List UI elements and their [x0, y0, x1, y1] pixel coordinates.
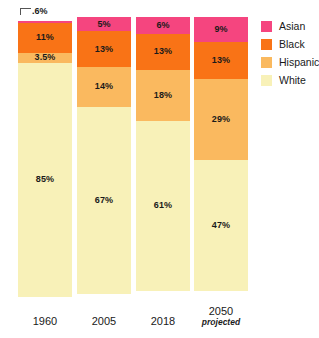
bar-2050: 9%13%29%47% — [194, 17, 248, 297]
segment-asian-2050: 9% — [194, 17, 248, 42]
segment-black-2005: 13% — [77, 31, 131, 67]
callout-leader-line — [20, 8, 31, 15]
segment-value-label: 29% — [212, 115, 230, 124]
legend-swatch-asian — [261, 21, 272, 32]
legend-label: White — [279, 74, 306, 86]
segment-black-2018: 13% — [136, 34, 190, 70]
segment-value-label: 6% — [156, 21, 169, 30]
legend-item-black[interactable]: Black — [261, 35, 319, 53]
segment-black-1960: 11% — [18, 23, 72, 53]
x-axis-tick-label: 1960 — [18, 315, 72, 328]
segment-value-label: 9% — [214, 25, 227, 34]
legend-item-hispanic[interactable]: Hispanic — [261, 53, 319, 71]
segment-white-2005: 67% — [77, 107, 131, 295]
legend-item-white[interactable]: White — [261, 71, 319, 89]
segment-value-label: 85% — [36, 175, 54, 184]
segment-hispanic-1960: 3.5% — [18, 53, 72, 63]
segment-value-label: .6% — [32, 7, 48, 16]
stacked-bar-chart: .6%11%3.5%85%19605%13%14%67%20056%13%18%… — [0, 0, 319, 338]
segment-asian-2018: 6% — [136, 17, 190, 34]
segment-value-label: 11% — [36, 33, 54, 42]
segment-white-2018: 61% — [136, 121, 190, 292]
segment-value-label: 18% — [154, 91, 172, 100]
segment-asian-2005: 5% — [77, 17, 131, 31]
segment-value-label: 14% — [95, 82, 113, 91]
legend-swatch-black — [261, 39, 272, 50]
segment-white-2050: 47% — [194, 160, 248, 292]
segment-hispanic-2018: 18% — [136, 70, 190, 120]
segment-black-2050: 13% — [194, 42, 248, 78]
segment-value-label: 67% — [95, 196, 113, 205]
x-axis-tick-label: 2050 — [194, 305, 248, 318]
legend-swatch-hispanic — [261, 57, 272, 68]
legend-label: Asian — [279, 20, 305, 32]
x-axis-tick-label: 2005 — [77, 315, 131, 328]
x-axis-tick-1960: 1960 — [18, 315, 72, 328]
x-axis-tick-2018: 2018 — [136, 315, 190, 328]
chart-legend: AsianBlackHispanicWhite — [261, 17, 319, 89]
segment-value-label: 61% — [154, 201, 172, 210]
segment-value-label: 47% — [212, 221, 230, 230]
segment-hispanic-2005: 14% — [77, 67, 131, 106]
plot-area: .6%11%3.5%85%19605%13%14%67%20056%13%18%… — [0, 0, 252, 338]
segment-white-1960: 85% — [18, 63, 72, 297]
bar-1960: .6%11%3.5%85% — [18, 21, 72, 297]
legend-label: Hispanic — [279, 56, 319, 68]
x-axis-tick-2005: 2005 — [77, 315, 131, 328]
segment-value-label: 13% — [154, 47, 172, 56]
segment-value-label: 5% — [97, 20, 110, 29]
segment-value-label: 13% — [95, 45, 113, 54]
legend-swatch-white — [261, 75, 272, 86]
segment-hispanic-2050: 29% — [194, 79, 248, 160]
bar-2018: 6%13%18%61% — [136, 17, 190, 297]
x-axis-tick-2050: 2050projected — [194, 305, 248, 328]
bar-2005: 5%13%14%67% — [77, 17, 131, 297]
legend-item-asian[interactable]: Asian — [261, 17, 319, 35]
x-axis-tick-label: 2018 — [136, 315, 190, 328]
segment-value-label: 3.5% — [35, 53, 56, 62]
segment-value-label: 13% — [212, 56, 230, 65]
callout-asian-1960: .6% — [20, 7, 48, 16]
legend-label: Black — [279, 38, 305, 50]
x-axis-tick-sublabel: projected — [194, 318, 248, 328]
